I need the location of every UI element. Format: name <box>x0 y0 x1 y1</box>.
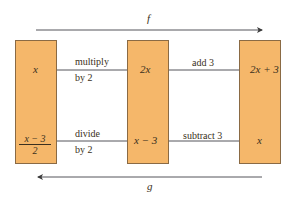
box1-bottom-fraction: x − 3 2 <box>19 133 51 156</box>
step-subtract-label: subtract 3 <box>183 130 222 142</box>
box2-top-expr: 2x <box>140 63 150 75</box>
g-label: g <box>147 180 153 192</box>
step-add-label: add 3 <box>192 57 214 69</box>
box3-bottom-expr: x <box>257 134 262 146</box>
box2-bottom-expr: x − 3 <box>134 134 157 146</box>
f-label: f <box>147 12 150 24</box>
step-divide-label: divide by 2 <box>75 128 100 156</box>
step-multiply-label: multiply by 2 <box>75 56 109 84</box>
box1-top-expr: x <box>33 63 38 75</box>
fraction-denominator: 2 <box>19 145 51 156</box>
function-inverse-diagram: f g x 2x 2x + 3 x − 3 2 x − 3 x multiply… <box>0 0 292 197</box>
box3-top-expr: 2x + 3 <box>250 63 279 75</box>
fraction-numerator: x − 3 <box>19 133 51 145</box>
